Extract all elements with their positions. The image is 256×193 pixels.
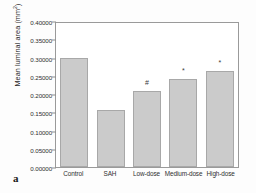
bar xyxy=(60,58,88,168)
significance-marker: * xyxy=(206,59,234,66)
panel-label: a xyxy=(13,172,19,184)
figure-panel-a: Mean luminal area (mm2) 0.000000.050000.… xyxy=(0,0,256,193)
bar xyxy=(133,91,161,167)
y-axis-tick-mark xyxy=(52,58,56,59)
bar-column xyxy=(97,23,125,167)
x-axis-tick-label: Control xyxy=(55,170,92,184)
bar xyxy=(206,71,234,167)
bar-column: * xyxy=(206,23,234,167)
bar-column xyxy=(60,23,88,167)
y-axis-title-superscript: 2 xyxy=(12,6,18,9)
y-axis-tick-label: 0.25000 xyxy=(14,73,52,80)
y-axis-tick-labels: 0.000000.050000.100000.150000.200000.250… xyxy=(14,14,52,174)
y-axis-tick-mark xyxy=(52,40,56,41)
bar xyxy=(97,110,125,167)
y-axis-tick-label: 0.10000 xyxy=(14,128,52,135)
x-axis-tick-label: Low-dose xyxy=(128,170,165,184)
x-axis-tick-label: SAH xyxy=(92,170,129,184)
significance-marker: # xyxy=(133,79,161,86)
y-axis-tick-mark xyxy=(52,168,56,169)
significance-marker: * xyxy=(169,67,197,74)
bar xyxy=(169,79,197,167)
y-axis-tick-mark xyxy=(52,113,56,114)
y-axis-tick-mark xyxy=(52,76,56,77)
plot-area: #** xyxy=(55,22,239,168)
y-axis-tick-mark xyxy=(52,22,56,23)
y-axis-tick-mark xyxy=(52,149,56,150)
x-axis-tick-label: High-dose xyxy=(202,170,239,184)
y-axis-tick-label: 0.00000 xyxy=(14,165,52,172)
y-axis-tick-label: 0.05000 xyxy=(14,146,52,153)
bar-column: # xyxy=(133,23,161,167)
y-axis-tick-mark xyxy=(52,95,56,96)
y-axis-tick-label: 0.40000 xyxy=(14,19,52,26)
bar-group: #** xyxy=(56,23,238,167)
y-axis-tick-label: 0.20000 xyxy=(14,92,52,99)
x-axis-tick-labels: ControlSAHLow-doseMedium-doseHigh-dose xyxy=(55,170,239,184)
y-axis-tick-mark xyxy=(52,131,56,132)
y-axis-tick-label: 0.15000 xyxy=(14,110,52,117)
y-axis-tick-label: 0.35000 xyxy=(14,37,52,44)
y-axis-tick-label: 0.30000 xyxy=(14,55,52,62)
x-axis-tick-label: Medium-dose xyxy=(165,170,203,184)
y-axis-title-tail: ) xyxy=(13,3,22,6)
bar-column: * xyxy=(169,23,197,167)
